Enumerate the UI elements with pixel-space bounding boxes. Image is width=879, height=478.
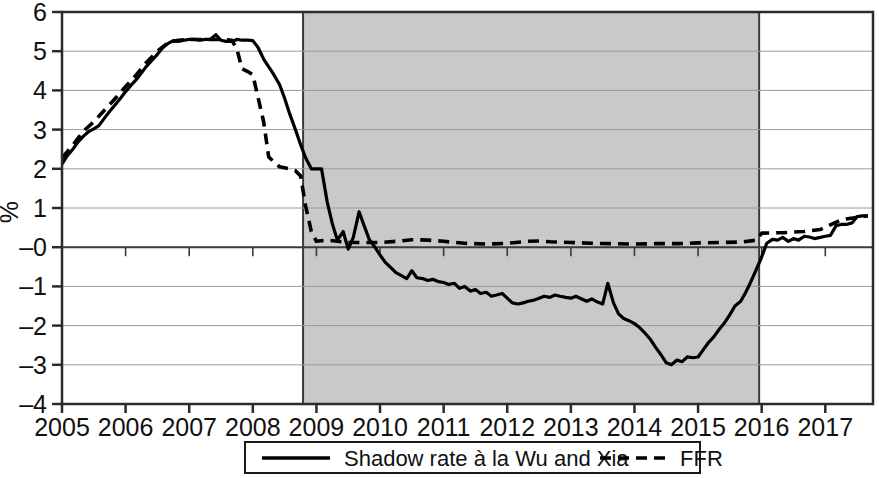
y-axis: 654321–0–1–2–3–4 bbox=[19, 0, 62, 418]
legend-label-shadow-rate: Shadow rate à la Wu and Xia bbox=[344, 446, 629, 471]
x-tick-label-2008: 2008 bbox=[225, 413, 281, 441]
y-tick-label-3: 3 bbox=[33, 116, 47, 144]
x-tick-label-2011: 2011 bbox=[417, 413, 471, 441]
chart-figure: 654321–0–1–2–3–4 20052006200720082009201… bbox=[0, 0, 879, 478]
y-tick-label-1: 1 bbox=[33, 194, 47, 222]
y-tick-label--1: –1 bbox=[19, 272, 47, 300]
x-tick-label-2010: 2010 bbox=[352, 413, 408, 441]
shadow-rate-line-chart: 654321–0–1–2–3–4 20052006200720082009201… bbox=[0, 0, 879, 478]
y-tick-label-0: –0 bbox=[19, 233, 47, 261]
y-axis-title: % bbox=[0, 201, 23, 223]
x-axis: 2005200620072008200920102011201220132014… bbox=[34, 404, 853, 441]
x-tick-label-2016: 2016 bbox=[734, 413, 790, 441]
y-tick-label-6: 6 bbox=[33, 0, 47, 26]
x-tick-label-2013: 2013 bbox=[543, 413, 599, 441]
x-tick-label-2017: 2017 bbox=[797, 413, 853, 441]
y-tick-label-4: 4 bbox=[33, 76, 47, 104]
chart-legend: Shadow rate à la Wu and Xia FFR bbox=[245, 442, 723, 473]
y-tick-label--3: –3 bbox=[19, 351, 47, 379]
x-tick-label-2007: 2007 bbox=[161, 413, 217, 441]
y-tick-label--2: –2 bbox=[19, 312, 47, 340]
y-tick-label-5: 5 bbox=[33, 37, 47, 65]
legend-label-ffr: FFR bbox=[680, 446, 723, 471]
y-tick-label-2: 2 bbox=[33, 155, 47, 183]
x-tick-label-2014: 2014 bbox=[607, 413, 663, 441]
x-tick-label-2006: 2006 bbox=[98, 413, 154, 441]
x-tick-label-2005: 2005 bbox=[34, 413, 90, 441]
x-tick-label-2015: 2015 bbox=[670, 413, 726, 441]
x-tick-label-2009: 2009 bbox=[289, 413, 345, 441]
x-tick-label-2012: 2012 bbox=[479, 413, 535, 441]
